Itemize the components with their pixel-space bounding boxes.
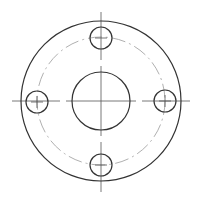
centerlines: [12, 12, 190, 192]
flange-drawing: [0, 0, 198, 203]
